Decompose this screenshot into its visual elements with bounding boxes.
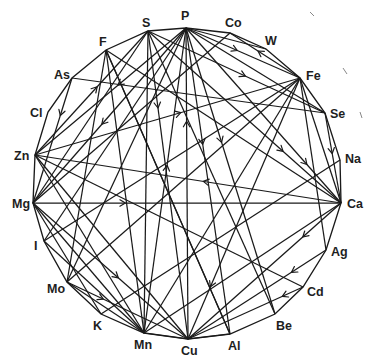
edge-Ag-Cu <box>188 250 326 339</box>
edge-Co-Mg <box>33 33 230 203</box>
edge-P-Al <box>186 28 230 334</box>
node-label-co: Co <box>225 16 242 30</box>
edge-P-I <box>44 28 186 241</box>
edge-Mg-Mn <box>33 203 144 333</box>
node-label-mo: Mo <box>47 282 65 296</box>
node-label-f: F <box>99 35 107 49</box>
node-label-k: K <box>93 319 102 333</box>
node-label-mn: Mn <box>134 338 152 352</box>
node-label-p: P <box>181 9 189 23</box>
edge-P-Fe <box>186 28 300 78</box>
edge-P-Se <box>186 28 325 113</box>
edge-S-Mg <box>33 31 148 203</box>
node-label-cu: Cu <box>181 344 198 358</box>
node-label-fe: Fe <box>306 69 321 83</box>
node-label-as: As <box>54 68 70 82</box>
node-label-na: Na <box>345 152 362 166</box>
node-label-ag: Ag <box>331 245 348 259</box>
node-label-ca: Ca <box>347 197 364 211</box>
node-label-al: Al <box>228 339 241 353</box>
node-label-zn: Zn <box>14 149 29 163</box>
node-label-i: I <box>34 239 37 253</box>
edge-Se-Ca <box>325 113 341 203</box>
edge-P-Be <box>186 28 275 314</box>
node-label-cl: Cl <box>30 106 43 120</box>
edge-P-Cu <box>186 28 188 339</box>
edge-F-Mo <box>67 50 106 282</box>
edge-P-Mg <box>33 28 186 203</box>
node-label-cd: Cd <box>307 285 324 299</box>
element-interaction-diagram: PCoWFeSeNaCaAgCdBeAlCuMnKMoIMgZnClAsFS <box>0 0 374 361</box>
node-label-w: W <box>265 34 277 48</box>
interaction-lines <box>33 28 341 339</box>
node-label-s: S <box>142 16 150 30</box>
node-label-se: Se <box>330 107 345 121</box>
node-label-be: Be <box>276 319 292 333</box>
node-label-mg: Mg <box>12 197 30 211</box>
